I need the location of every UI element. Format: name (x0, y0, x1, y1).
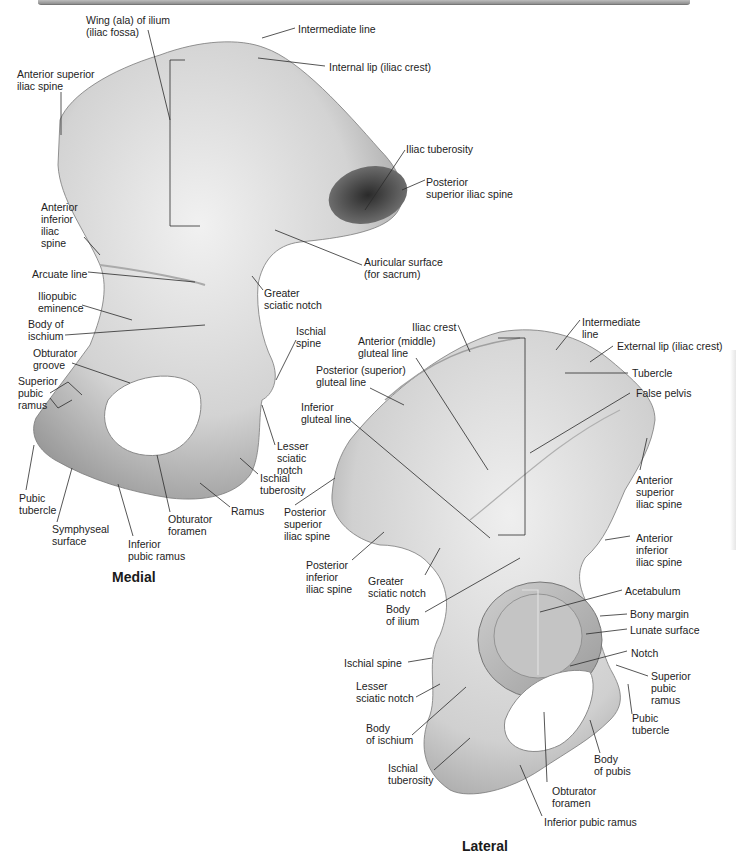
label-greater-sciatic-notch-medial: Greater sciatic notch (264, 287, 322, 311)
label-internal-lip: Internal lip (iliac crest) (329, 61, 431, 73)
label-acetabulum: Acetabulum (625, 585, 680, 597)
label-ischial-tuberosity-medial: Ischial tuberosity (260, 472, 306, 496)
label-posterior-gluteal-line: Posterior (superior) gluteal line (316, 364, 406, 388)
label-superior-pubic-ramus-medial: Superior pubic ramus (18, 375, 58, 411)
label-inferior-gluteal-line: Inferior gluteal line (301, 401, 351, 425)
label-body-of-ischium-lateral: Body of ischium (366, 722, 413, 746)
label-ramus: Ramus (231, 505, 264, 517)
label-bony-margin: Bony margin (630, 608, 689, 620)
label-body-of-ischium-medial: Body of ischium (28, 318, 64, 342)
label-intermediate-line-medial: Intermediate line (298, 23, 376, 35)
label-arcuate-line: Arcuate line (32, 268, 87, 280)
label-psis-lateral: Posterior superior iliac spine (284, 506, 330, 542)
label-wing-of-ilium: Wing (ala) of ilium (iliac fossa) (86, 14, 170, 38)
label-body-of-pubis: Body of pubis (594, 753, 631, 777)
view-title-medial: Medial (112, 569, 156, 585)
label-tubercle: Tubercle (632, 367, 672, 379)
label-lesser-sciatic-notch-medial: Lesser sciatic notch (277, 440, 309, 476)
label-lesser-sciatic-notch-lateral: Lesser sciatic notch (356, 680, 414, 704)
label-iliopubic-eminence: Iliopubic eminence (38, 290, 84, 314)
label-intermediate-line-lateral: Intermediate line (582, 316, 640, 340)
label-obturator-groove: Obturator groove (33, 347, 77, 371)
label-ischial-tuberosity-lateral: Ischial tuberosity (388, 762, 434, 786)
label-inferior-pubic-ramus-medial: Inferior pubic ramus (128, 538, 185, 562)
label-notch: Notch (631, 647, 658, 659)
label-false-pelvis: False pelvis (636, 387, 691, 399)
label-ischial-spine-lateral: Ischial spine (344, 657, 402, 669)
medial-hip-bone (34, 42, 414, 499)
label-obturator-foramen-medial: Obturator foramen (168, 513, 212, 537)
view-title-lateral: Lateral (462, 838, 508, 853)
label-aiis-lateral: Anterior inferior iliac spine (636, 532, 682, 568)
label-external-lip: External lip (iliac crest) (617, 340, 723, 352)
label-anterior-gluteal-line: Anterior (middle) gluteal line (358, 335, 436, 359)
label-ischial-spine-medial: Ischial spine (296, 325, 326, 349)
label-asis-lateral: Anterior superior iliac spine (636, 474, 682, 510)
label-piis-lateral: Posterior inferior iliac spine (306, 559, 352, 595)
label-pubic-tubercle-lateral: Pubic tubercle (632, 712, 669, 736)
label-auricular-surface: Auricular surface (for sacrum) (364, 256, 443, 280)
label-symphyseal-surface: Symphyseal surface (52, 523, 109, 547)
label-obturator-foramen-lateral: Obturator foramen (552, 785, 596, 809)
label-lunate-surface: Lunate surface (630, 624, 699, 636)
label-pubic-tubercle-medial: Pubic tubercle (19, 492, 56, 516)
label-asis-medial: Anterior superior iliac spine (17, 68, 95, 92)
label-aiis-medial: Anterior inferior iliac spine (41, 201, 78, 249)
label-inferior-pubic-ramus-lateral: Inferior pubic ramus (544, 816, 637, 828)
label-greater-sciatic-notch-lateral: Greater sciatic notch (368, 575, 426, 599)
label-psis-medial: Posterior superior iliac spine (426, 176, 513, 200)
label-superior-pubic-ramus-lateral: Superior pubic ramus (651, 670, 691, 706)
label-body-of-ilium: Body of ilium (386, 603, 419, 627)
label-iliac-tuberosity: Iliac tuberosity (406, 143, 473, 155)
label-iliac-crest: Iliac crest (412, 321, 456, 333)
